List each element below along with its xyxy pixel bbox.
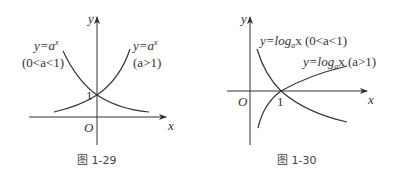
figure-exponential: y x O 1 y=ax (0<a<1) y=ax (a>1) 图 1-29 [22,11,174,167]
tick-label-one: 1 [277,94,284,109]
curve-cond-exp-increasing: (a>1) [133,55,161,70]
curve-label-exp-decreasing: y=ax [32,38,59,53]
curve-label-log-decreasing: y=logax (0<a<1) [258,33,347,50]
tick-label-one: 1 [86,88,93,103]
figure-caption: 图 1-30 [277,154,316,167]
origin-label: O [84,120,94,135]
figure-logarithm: y x O 1 y=logax (0<a<1) y=logax (a>1) 图 … [227,11,376,167]
x-axis-label: x [367,92,374,107]
curve-label-log-increasing: y=logax (a>1) [301,54,376,71]
figure-caption: 图 1-29 [77,154,116,167]
y-axis-label: y [86,11,94,26]
curve-cond-exp-decreasing: (0<a<1) [22,55,64,70]
diagram-canvas: y x O 1 y=ax (0<a<1) y=ax (a>1) 图 1-29 y… [0,0,394,177]
origin-label: O [238,94,248,109]
x-axis-label: x [167,118,174,133]
y-axis-label: y [239,11,247,26]
curve-label-exp-increasing: y=ax [131,38,158,53]
